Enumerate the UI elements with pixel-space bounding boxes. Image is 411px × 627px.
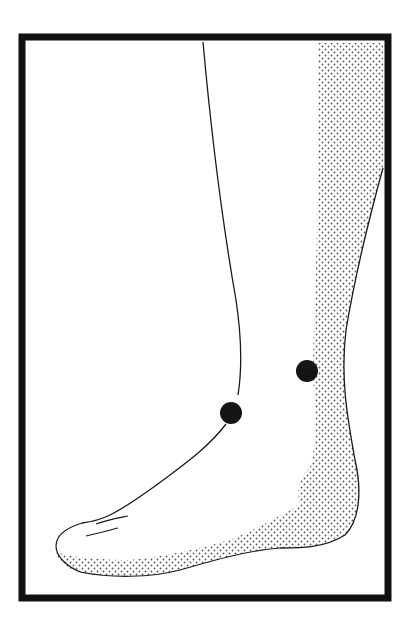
marker-point-1 <box>220 402 242 424</box>
shin-outline <box>203 42 241 395</box>
marker-point-2 <box>296 360 318 382</box>
leg-foot-illustration <box>0 0 411 627</box>
foot-top-outline <box>82 424 226 523</box>
leg-shading <box>56 43 383 576</box>
